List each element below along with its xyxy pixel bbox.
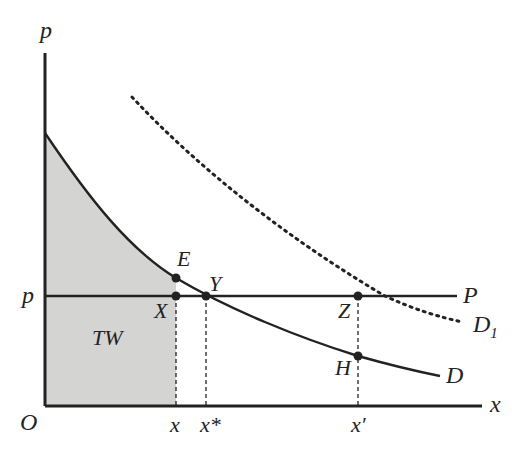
curve-d-label: D (445, 362, 463, 388)
point-x (172, 292, 181, 301)
point-e-label: E (176, 246, 191, 271)
tw-shaded-region (45, 133, 176, 406)
y-axis-label: p (38, 17, 52, 43)
welfare-diagram: p x O p P E X Y Z H D D1 TW x x* x′ (0, 0, 520, 455)
point-y-label: Y (209, 271, 224, 296)
curve-d1-label: D1 (472, 311, 498, 341)
point-z-label: Z (338, 298, 351, 323)
point-z (354, 292, 363, 301)
x-axis-label: x (489, 391, 501, 417)
point-e (172, 274, 181, 283)
demand-curve-d1 (132, 97, 462, 322)
tick-xstar-label: x* (199, 412, 221, 437)
tw-label: TW (92, 325, 124, 350)
tick-x-label: x (169, 412, 180, 437)
price-line-label: P (462, 282, 478, 308)
point-x-label: X (153, 298, 169, 323)
point-h-label: H (334, 355, 352, 380)
tick-xprime-label: x′ (350, 412, 367, 437)
origin-label: O (20, 409, 37, 435)
price-axis-label: p (20, 282, 34, 308)
point-h (354, 352, 363, 361)
